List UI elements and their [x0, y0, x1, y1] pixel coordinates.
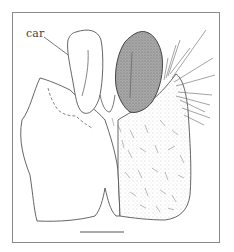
specimen-illustration: [0, 0, 234, 252]
stalk: [100, 95, 115, 112]
left-lobe: [21, 78, 120, 221]
